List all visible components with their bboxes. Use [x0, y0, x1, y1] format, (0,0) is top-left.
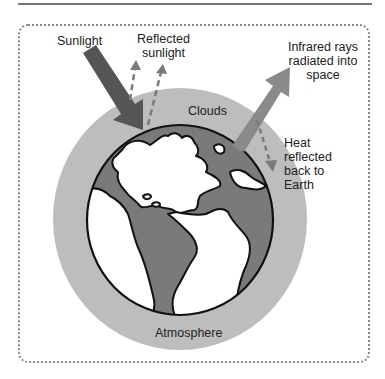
label-clouds: Clouds: [188, 104, 227, 118]
label-line: radiated into: [283, 54, 363, 68]
label-line: Heat: [284, 136, 332, 150]
island: [143, 194, 151, 199]
arrowhead-icon: [156, 64, 167, 74]
label-atmosphere: Atmosphere: [155, 326, 222, 340]
label-line: back to: [284, 164, 332, 178]
label-line: reflected: [284, 150, 332, 164]
label-infrared-rays: Infrared rays radiated into space: [283, 40, 363, 82]
label-line: Reflected: [126, 32, 201, 46]
label-heat-reflected: Heat reflected back to Earth: [284, 136, 332, 192]
label-sunlight: Sunlight: [57, 34, 102, 48]
label-line: sunlight: [126, 46, 201, 60]
island: [152, 202, 160, 207]
label-line: Earth: [284, 178, 332, 192]
arrowhead-icon: [130, 60, 141, 70]
label-reflected-sunlight: Reflected sunlight: [126, 32, 201, 60]
label-line: Infrared rays: [283, 40, 363, 54]
label-line: space: [283, 68, 363, 82]
greenland-landmass: [214, 144, 224, 153]
